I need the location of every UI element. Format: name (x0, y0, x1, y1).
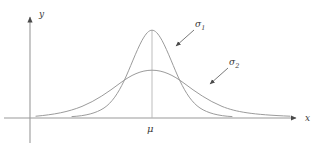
sigma2-subscript: 2 (235, 62, 239, 70)
mean-label: μ (147, 124, 154, 134)
x-axis-label: x (305, 114, 310, 123)
sigma2-arrow (210, 68, 228, 84)
sigma1-arrow (176, 30, 194, 46)
normal-distribution-figure: y x μ σ1 σ2 (0, 0, 318, 149)
plot-canvas (0, 0, 318, 149)
sigma1-subscript: 1 (201, 24, 205, 32)
y-axis-label: y (39, 10, 44, 19)
sigma2-label: σ2 (229, 58, 239, 69)
sigma1-label: σ1 (195, 20, 205, 31)
sigma2-curve (36, 70, 290, 116)
